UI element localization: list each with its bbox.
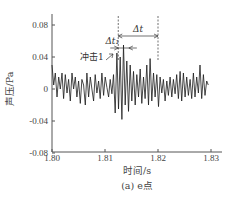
chart: 0.080.040-0.04-0.081.801.811.821.83 ΔtΔt… — [0, 0, 237, 205]
dt1-label: Δt₁ — [104, 36, 119, 46]
impact-label: 冲击1 — [80, 51, 104, 62]
x-tick-label: 1.83 — [203, 153, 219, 163]
y-tick-label: 0.08 — [32, 20, 48, 30]
y-tick-label: 0.04 — [32, 52, 48, 62]
y-tick-label: -0.04 — [29, 116, 48, 126]
dt-label: Δt — [132, 24, 143, 34]
x-tick-label: 1.81 — [97, 153, 113, 163]
y-axis-title: 声压/Pa — [4, 71, 15, 106]
x-tick-label: 1.80 — [44, 153, 60, 163]
annotations: ΔtΔt₁冲击1 — [80, 16, 158, 62]
chart-caption: (a) e点 — [121, 180, 153, 191]
x-tick-label: 1.82 — [150, 153, 166, 163]
series-line — [52, 45, 208, 119]
x-axis-title: 时间/s — [123, 165, 151, 176]
y-tick-label: 0 — [44, 84, 49, 94]
signal-line — [52, 45, 208, 119]
